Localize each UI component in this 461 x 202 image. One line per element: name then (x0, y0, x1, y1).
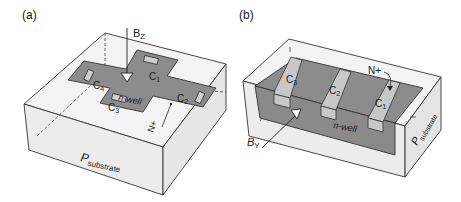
implant-label-b: N+ (368, 65, 381, 76)
panel-b-tag: (b) (239, 8, 254, 22)
hall-sensor-diagram: (a) C1 C4 C2 C3 n-well BZ (0, 0, 461, 202)
field-label-bz: BZ (133, 27, 145, 41)
panel-b: (b) C3 C2 C1 n-well N+ (239, 8, 441, 177)
panel-a: (a) C1 C4 C2 C3 n-well BZ (22, 8, 226, 195)
panel-a-tag: (a) (22, 8, 37, 22)
substrate-box-a (24, 33, 226, 195)
